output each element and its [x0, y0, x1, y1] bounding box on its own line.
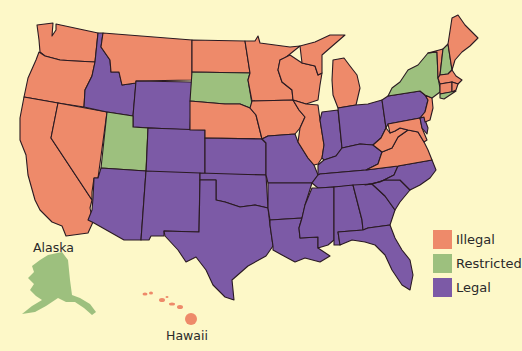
state-fl	[338, 225, 413, 290]
state-co	[146, 128, 205, 175]
legend-item-restricted: Restricted	[433, 253, 522, 274]
state-hi-island	[177, 305, 183, 309]
state-hi-island	[159, 298, 165, 302]
state-ny	[388, 52, 440, 98]
legend-swatch-legal	[433, 278, 452, 297]
state-hi-island	[149, 292, 153, 295]
state-me	[448, 15, 478, 70]
state-ks	[205, 138, 266, 175]
state-hi-island	[143, 293, 148, 296]
state-ak	[22, 252, 96, 315]
hawaii-label: Hawaii	[166, 328, 208, 343]
legend: Illegal Restricted Legal	[433, 229, 522, 301]
state-nm	[141, 171, 200, 240]
inset-states	[22, 252, 197, 325]
state-hi-island	[185, 313, 197, 325]
legend-label-legal: Legal	[456, 280, 491, 295]
contiguous-states	[20, 15, 478, 300]
state-az	[88, 168, 146, 240]
state-ri	[452, 82, 458, 92]
legend-swatch-restricted	[433, 254, 452, 273]
alaska-label: Alaska	[33, 240, 74, 255]
state-nd	[192, 40, 250, 73]
state-hi-island	[169, 303, 175, 306]
legend-item-legal: Legal	[433, 277, 522, 298]
legend-label-restricted: Restricted	[456, 256, 522, 271]
state-hi-island	[166, 296, 169, 298]
legend-swatch-illegal	[433, 230, 452, 249]
legend-label-illegal: Illegal	[456, 232, 495, 247]
map-figure: Alaska Hawaii Illegal Restricted Legal	[0, 0, 522, 351]
state-wy	[133, 81, 192, 130]
legend-item-illegal: Illegal	[433, 229, 522, 250]
